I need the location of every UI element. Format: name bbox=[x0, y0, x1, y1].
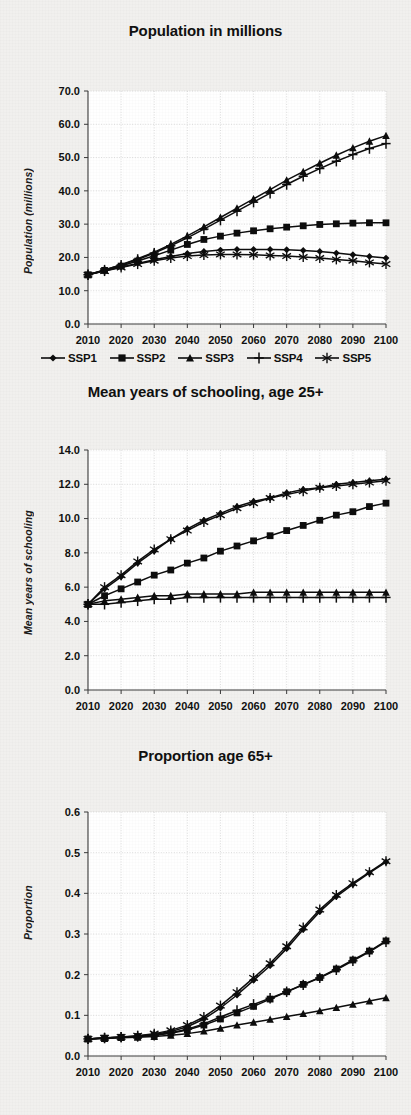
x-tick-label: 2080 bbox=[308, 700, 332, 710]
x-tick-label: 2100 bbox=[374, 334, 398, 346]
y-tick-label: 50.0 bbox=[59, 151, 80, 163]
y-tick-label: 60.0 bbox=[59, 118, 80, 130]
y-tick-label: 2.0 bbox=[65, 650, 80, 662]
x-tick-label: 2030 bbox=[142, 1066, 166, 1078]
x-tick-label: 2010 bbox=[76, 1066, 100, 1078]
x-tick-label: 2060 bbox=[241, 1066, 265, 1078]
x-tick-label: 2050 bbox=[208, 1066, 232, 1078]
y-tick-label: 0.4 bbox=[65, 887, 81, 899]
x-tick-label: 2020 bbox=[109, 700, 133, 710]
x-tick-label: 2080 bbox=[308, 1066, 332, 1078]
x-tick-label: 2100 bbox=[374, 1066, 398, 1078]
x-tick-label: 2080 bbox=[308, 334, 332, 346]
y-tick-label: 0.0 bbox=[65, 1050, 80, 1062]
x-tick-label: 2090 bbox=[341, 1066, 365, 1078]
y-tick-label: 6.0 bbox=[65, 581, 80, 593]
chart-panel-schooling: Mean years of schooling, age 25+ Mean ye… bbox=[0, 355, 411, 715]
y-tick-label: 10.0 bbox=[59, 285, 80, 297]
y-tick-label: 0.2 bbox=[65, 969, 80, 981]
x-tick-label: 2060 bbox=[241, 700, 265, 710]
y-tick-label: 0.3 bbox=[65, 928, 80, 940]
y-tick-label: 30.0 bbox=[59, 218, 80, 230]
x-tick-label: 2040 bbox=[175, 700, 199, 710]
y-tick-label: 70.0 bbox=[59, 85, 80, 97]
x-tick-label: 2030 bbox=[142, 700, 166, 710]
x-tick-label: 2050 bbox=[208, 334, 232, 346]
chart-svg-proportion: 0.00.10.20.30.40.50.62010202020302040205… bbox=[0, 764, 411, 1082]
chart-title-schooling: Mean years of schooling, age 25+ bbox=[0, 355, 411, 400]
plot-area-schooling: 0.02.04.06.08.010.012.014.02010202020302… bbox=[0, 400, 411, 710]
y-tick-label: 0.0 bbox=[65, 318, 80, 330]
x-tick-label: 2030 bbox=[142, 334, 166, 346]
x-tick-label: 2010 bbox=[76, 700, 100, 710]
x-tick-label: 2060 bbox=[241, 334, 265, 346]
x-tick-label: 2070 bbox=[274, 334, 298, 346]
x-tick-label: 2020 bbox=[109, 334, 133, 346]
y-tick-label: 40.0 bbox=[59, 185, 80, 197]
y-tick-label: 0.5 bbox=[65, 847, 80, 859]
y-tick-label: 4.0 bbox=[65, 615, 80, 627]
chart-svg-population: 0.010.020.030.040.050.060.070.0201020202… bbox=[0, 39, 411, 349]
y-tick-label: 14.0 bbox=[59, 444, 80, 456]
y-tick-label: 0.6 bbox=[65, 806, 80, 818]
y-tick-label: 12.0 bbox=[59, 478, 80, 490]
x-tick-label: 2100 bbox=[374, 700, 398, 710]
x-tick-label: 2070 bbox=[274, 700, 298, 710]
x-tick-label: 2050 bbox=[208, 700, 232, 710]
plot-area-population: 0.010.020.030.040.050.060.070.0201020202… bbox=[0, 39, 411, 349]
chart-panel-population: Population in millions Population (milli… bbox=[0, 0, 411, 355]
x-tick-label: 2010 bbox=[76, 334, 100, 346]
x-tick-label: 2090 bbox=[341, 700, 365, 710]
chart-panel-proportion: Proportion age 65+ Proportion 0.00.10.20… bbox=[0, 715, 411, 1115]
y-tick-label: 8.0 bbox=[65, 547, 80, 559]
chart-title-proportion: Proportion age 65+ bbox=[0, 715, 411, 764]
plot-area-proportion: 0.00.10.20.30.40.50.62010202020302040205… bbox=[0, 764, 411, 1082]
x-tick-label: 2020 bbox=[109, 1066, 133, 1078]
y-tick-label: 10.0 bbox=[59, 512, 80, 524]
x-tick-label: 2090 bbox=[341, 334, 365, 346]
chart-title-population: Population in millions bbox=[0, 0, 411, 39]
chart-svg-schooling: 0.02.04.06.08.010.012.014.02010202020302… bbox=[0, 400, 411, 710]
x-tick-label: 2040 bbox=[175, 1066, 199, 1078]
x-tick-label: 2040 bbox=[175, 334, 199, 346]
x-tick-label: 2070 bbox=[274, 1066, 298, 1078]
y-tick-label: 0.1 bbox=[65, 1009, 80, 1021]
y-tick-label: 0.0 bbox=[65, 684, 80, 696]
y-tick-label: 20.0 bbox=[59, 251, 80, 263]
